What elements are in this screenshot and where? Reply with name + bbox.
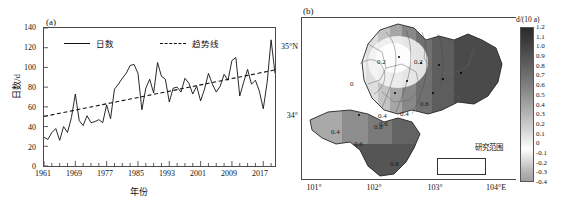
colorbar-tick-neg0p1: -0.1 — [536, 150, 547, 157]
colorbar-tick-0p6: 0.6 — [536, 82, 545, 89]
x-tick-1977: 1977 — [90, 170, 120, 178]
figure-root: (a) 日数/d 年份 140 120 100 80 60 40 20 0 19… — [0, 0, 565, 203]
study-area-legend-swatch — [437, 158, 486, 175]
panel-a-x-axis-label: 年份 — [130, 188, 148, 197]
station-dot — [442, 78, 444, 80]
colorbar — [520, 27, 534, 182]
contour-label-06a: 0.6 — [420, 100, 429, 108]
panel-a-tag: (a) — [46, 18, 56, 27]
contour-label-08b: 0.8 — [390, 160, 399, 168]
y-tick-40: 40 — [10, 124, 36, 132]
station-dot — [398, 56, 400, 58]
colorbar-tick-0: 0 — [536, 140, 540, 147]
y-tick-120: 120 — [10, 44, 36, 52]
y-axis-ticks — [44, 28, 48, 166]
lon-tick-103: 103° — [418, 184, 452, 192]
lon-tick-101: 101° — [297, 184, 331, 192]
contour-label-0: 0 — [350, 80, 354, 88]
contour-label-06c: 0.6 — [354, 140, 363, 148]
panel-b-tag: (b) — [303, 7, 314, 16]
map-plot-area: 0 0.2 0.2 0.4 0.4 0.4 0.6 0.6 0.6 0.8 0.… — [301, 17, 516, 180]
map-svg — [302, 18, 515, 179]
colorbar-tick-0p9: 0.9 — [536, 53, 545, 60]
x-tick-2017: 2017 — [245, 170, 275, 178]
lat-tick-35N: 35°N — [264, 43, 298, 51]
colorbar-tick-0p5: 0.5 — [536, 92, 545, 99]
colorbar-tick-0p7: 0.7 — [536, 72, 545, 79]
x-axis-ticks — [44, 161, 271, 166]
colorbar-tick-1: 1.0 — [536, 43, 545, 50]
station-dot — [438, 64, 440, 66]
x-tick-2001: 2001 — [183, 170, 213, 178]
contour-label-04c: 0.4 — [331, 128, 340, 136]
colorbar-tick-1p1: 1.1 — [536, 34, 545, 41]
contour-label-02a: 0.2 — [377, 58, 386, 66]
station-dot — [460, 72, 462, 74]
x-tick-1993: 1993 — [152, 170, 182, 178]
x-tick-1969: 1969 — [59, 170, 89, 178]
station-dot — [394, 92, 396, 94]
study-area-legend-label: 研究范围 — [475, 144, 503, 152]
colorbar-tick-1p2: 1.2 — [536, 24, 545, 31]
y-tick-80: 80 — [10, 84, 36, 92]
y-tick-20: 20 — [10, 144, 36, 152]
lon-tick-104E: 104°E — [479, 184, 513, 192]
colorbar-tick-neg0p2: -0.2 — [536, 160, 547, 167]
colorbar-tick-neg0p4: -0.4 — [536, 179, 547, 186]
x-tick-1985: 1985 — [121, 170, 151, 178]
station-dot — [406, 80, 408, 82]
colorbar-tick-0p8: 0.8 — [536, 63, 545, 70]
contour-label-04a: 0.4 — [378, 112, 387, 120]
contour-label-08a: 0.8 — [374, 123, 383, 131]
contour-label-04b: 0.4 — [400, 110, 409, 118]
y-tick-140: 140 — [10, 24, 36, 32]
y-tick-60: 60 — [10, 104, 36, 112]
days-series-path — [44, 40, 275, 141]
panel-a-series-svg — [44, 28, 275, 166]
colorbar-tick-0p1: 0.1 — [536, 131, 545, 138]
x-tick-2009: 2009 — [214, 170, 244, 178]
colorbar-tick-0p3: 0.3 — [536, 111, 545, 118]
panel-a-timeseries-chart: (a) 日数/d 年份 140 120 100 80 60 40 20 0 19… — [0, 0, 290, 203]
station-dot — [358, 114, 360, 116]
lat-tick-34: 34° — [264, 112, 298, 120]
station-dot — [420, 62, 422, 64]
lon-tick-102: 102° — [357, 184, 391, 192]
colorbar-tick-0p4: 0.4 — [536, 102, 545, 109]
x-tick-1961: 1961 — [28, 170, 58, 178]
station-dot — [432, 92, 434, 94]
colorbar-tick-neg0p3: -0.3 — [536, 169, 547, 176]
panel-a-plot-area: 日数 趋势线 — [43, 27, 276, 167]
colorbar-tick-0p2: 0.2 — [536, 121, 545, 128]
y-tick-100: 100 — [10, 64, 36, 72]
panel-b-map: (b) 35°N 34° 101° 102° 103° 104°E — [288, 0, 565, 203]
